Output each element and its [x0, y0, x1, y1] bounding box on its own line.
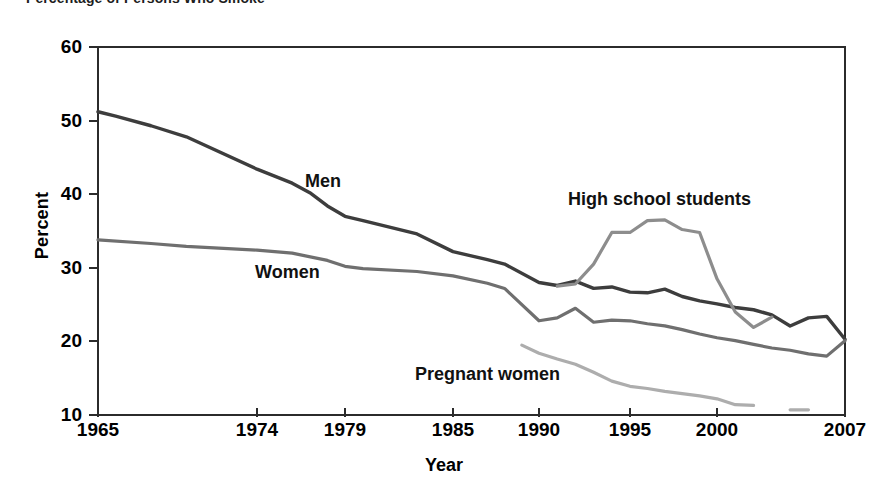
- line-chart: 605040302010 196519741979198519901995200…: [0, 0, 888, 495]
- series-label-pregnant-women: Pregnant women: [415, 365, 560, 383]
- series-label-men: Men: [305, 172, 341, 190]
- series-line-2: [557, 220, 772, 327]
- series-label-high-school-students: High school students: [568, 190, 751, 208]
- series-container: [0, 0, 888, 495]
- series-label-women: Women: [255, 263, 320, 281]
